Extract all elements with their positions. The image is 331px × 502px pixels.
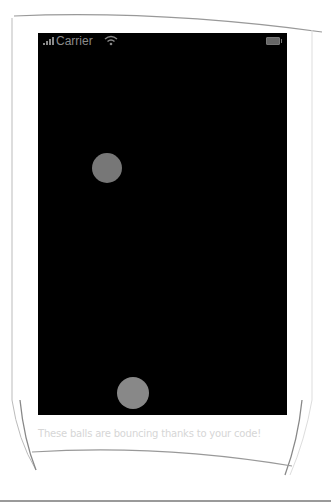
signal-bars-icon [43,37,54,45]
phone-screen: Carrier [38,33,287,415]
battery-icon [266,37,280,45]
ball [92,153,122,183]
wifi-icon [104,35,118,46]
status-bar: Carrier [38,33,287,49]
caption-text: These balls are bouncing thanks to your … [38,428,261,439]
ball [117,377,149,409]
carrier-label: Carrier [56,34,93,48]
